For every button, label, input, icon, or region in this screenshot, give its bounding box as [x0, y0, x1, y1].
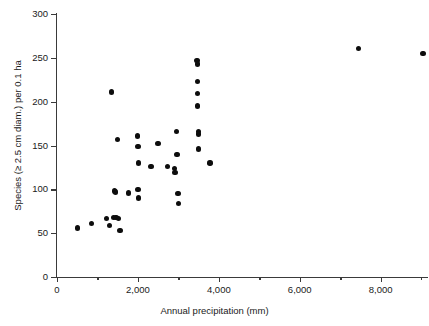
- y-tick-mark: [51, 233, 57, 234]
- data-point: [175, 191, 180, 196]
- y-tick-mark: [51, 146, 57, 147]
- x-axis-title: Annual precipitation (mm): [0, 305, 429, 316]
- y-tick-label: 0: [43, 271, 48, 282]
- y-tick-mark: [51, 189, 57, 190]
- figure-caption-clipped: [0, 0, 429, 3]
- data-point: [109, 89, 114, 94]
- y-tick-mark: [51, 102, 57, 103]
- y-axis-title: Species (≥ 2.5 cm diam.) per 0.1 ha: [12, 16, 23, 256]
- x-tick-label: 2,000: [126, 284, 150, 295]
- data-point: [116, 216, 121, 221]
- data-point: [115, 137, 120, 142]
- x-tick-label: 0: [54, 284, 59, 295]
- data-point: [176, 201, 181, 206]
- data-point: [117, 228, 122, 233]
- data-point: [195, 103, 200, 108]
- data-point: [174, 129, 179, 134]
- data-point: [196, 131, 201, 136]
- data-point: [195, 61, 200, 66]
- y-tick-label: 200: [32, 96, 48, 107]
- data-point: [75, 225, 80, 230]
- y-tick-mark: [51, 14, 57, 15]
- data-point: [155, 141, 160, 146]
- data-point: [196, 146, 201, 151]
- data-point: [135, 187, 140, 192]
- data-point: [135, 144, 140, 149]
- scatter-plot-figure: 300250200150100500 02,0004,0006,0008,000…: [0, 0, 429, 326]
- data-point: [195, 79, 200, 84]
- x-tick-label: 6,000: [288, 284, 312, 295]
- x-tick-mark: [340, 277, 341, 280]
- data-point: [165, 164, 170, 169]
- data-point: [172, 170, 177, 175]
- x-tick-mark: [219, 277, 220, 282]
- data-point: [195, 91, 200, 96]
- plot-area: 300250200150100500 02,0004,0006,0008,000: [57, 14, 428, 277]
- x-tick-label: 8,000: [369, 284, 393, 295]
- y-tick-label: 100: [32, 183, 48, 194]
- data-point: [104, 216, 109, 221]
- data-point: [356, 46, 361, 51]
- x-tick-label: 4,000: [207, 284, 231, 295]
- x-tick-mark: [421, 277, 422, 280]
- data-point: [126, 190, 131, 195]
- x-tick-mark: [57, 277, 58, 282]
- x-tick-mark: [259, 277, 260, 280]
- data-point: [136, 195, 141, 200]
- y-tick-label: 250: [32, 52, 48, 63]
- y-tick-label: 300: [32, 8, 48, 19]
- data-point: [174, 152, 179, 157]
- x-tick-mark: [138, 277, 139, 282]
- data-point: [89, 221, 94, 226]
- x-tick-mark: [300, 277, 301, 282]
- x-tick-mark: [178, 277, 179, 280]
- data-point: [420, 51, 425, 56]
- data-point: [207, 160, 212, 165]
- y-tick-label: 150: [32, 140, 48, 151]
- y-tick-label: 50: [37, 227, 48, 238]
- data-point: [135, 133, 140, 138]
- data-point: [136, 160, 141, 165]
- y-tick-mark: [51, 58, 57, 59]
- x-tick-mark: [97, 277, 98, 280]
- x-tick-mark: [381, 277, 382, 282]
- data-point: [107, 223, 112, 228]
- data-point: [148, 164, 153, 169]
- data-point: [113, 189, 118, 194]
